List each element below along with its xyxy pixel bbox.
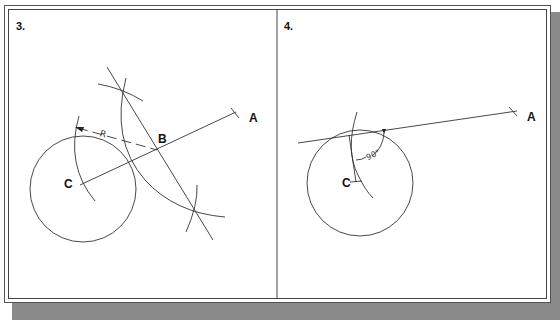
panel-4-number: 4. [284,20,293,32]
circle-c [30,136,136,242]
circle-c [307,130,413,236]
tangent-line [298,111,517,143]
arc-top-intersection [98,84,143,101]
label-a: A [527,110,536,124]
tick-a [231,108,239,118]
panel-3-number: 3. [16,20,25,32]
arc-large [121,78,225,217]
label-b: B [158,132,167,146]
label-c: C [342,176,351,190]
label-a: A [249,111,258,125]
construction-drawing: 3. A B C R 4. A C 90° [0,0,560,321]
dimension-r-line [78,128,157,150]
angle-leader [356,157,366,160]
panel-4 [298,107,517,236]
radius-line [349,135,356,182]
label-angle: 90° [365,148,382,162]
label-r: R [99,128,108,139]
label-c: C [64,177,73,191]
arrowhead-icon [382,129,386,134]
panel-3 [30,67,239,242]
tick-c [350,181,362,182]
line-c-to-a [80,112,236,185]
